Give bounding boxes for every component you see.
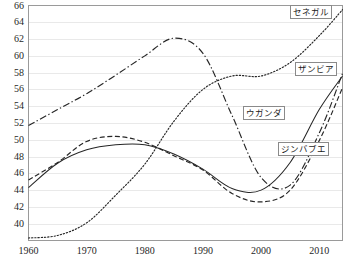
series-label-4: ジンバブエ bbox=[278, 142, 329, 156]
series-label-3: ウガンダ bbox=[243, 106, 285, 120]
series-label-2: ザンビア bbox=[295, 62, 337, 76]
y-axis-tick-label: 40 bbox=[2, 219, 24, 229]
y-axis-tick-label: 46 bbox=[2, 168, 24, 178]
x-axis-tick-label: 1980 bbox=[123, 246, 167, 256]
gridlines bbox=[29, 23, 343, 225]
y-axis-tick-label: 58 bbox=[2, 68, 24, 78]
y-axis-tick-label: 42 bbox=[2, 202, 24, 212]
x-axis-tick-label: 1990 bbox=[181, 246, 225, 256]
y-axis-tick-label: 66 bbox=[2, 1, 24, 11]
y-axis-tick-label: 62 bbox=[2, 34, 24, 44]
plot-frame bbox=[29, 6, 343, 241]
line-chart: 4042444648505254565860626466 19601970198… bbox=[0, 0, 351, 269]
y-axis-tick-label: 56 bbox=[2, 84, 24, 94]
y-axis-tick-label: 64 bbox=[2, 17, 24, 27]
y-axis-tick-label: 54 bbox=[2, 101, 24, 111]
y-axis-tick-label: 52 bbox=[2, 118, 24, 128]
x-axis-tick-label: 1960 bbox=[7, 246, 51, 256]
plot-area bbox=[0, 0, 351, 269]
y-axis-tick-label: 48 bbox=[2, 152, 24, 162]
series-line-3 bbox=[29, 76, 343, 192]
x-axis-tick-label: 2010 bbox=[297, 246, 341, 256]
x-axis-tick-label: 2000 bbox=[239, 246, 283, 256]
x-axis-tick-label: 1970 bbox=[65, 246, 109, 256]
y-axis-tick-label: 60 bbox=[2, 51, 24, 61]
y-axis-tick-label: 50 bbox=[2, 135, 24, 145]
series-label-1: セネガル bbox=[290, 5, 332, 19]
y-axis-tick-label: 44 bbox=[2, 185, 24, 195]
